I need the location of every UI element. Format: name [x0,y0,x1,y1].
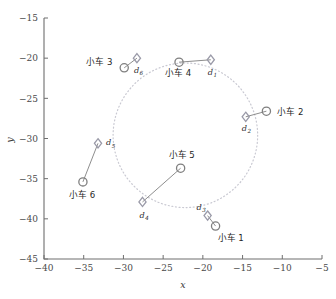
vehicle-label: 小车 2 [277,106,303,117]
target-label: d4 [139,210,149,221]
target-label: d6 [134,65,144,76]
x-tick-label: −25 [154,263,173,273]
target-label: d1 [208,67,217,78]
x-axis-title: x [180,279,186,290]
connector-line [83,143,98,182]
y-axis-title: y [4,137,15,144]
point-labels: 小车 1小车 2小车 3小车 4小车 5小车 6d1d2d3d4d5d6 [69,56,304,243]
vehicle-label: 小车 6 [69,189,95,200]
y-tick-label: −35 [19,174,38,184]
x-tick-label: −5 [315,263,329,273]
x-tick-label: −20 [193,263,212,273]
y-tick-label: −20 [19,53,38,63]
axes: −40−35−30−25−20−15−10−5−45−40−35−30−25−2… [19,13,329,273]
target-marker[interactable] [133,54,140,63]
x-tick-label: −15 [233,263,252,273]
vehicle-label: 小车 5 [169,149,195,160]
x-tick-label: −40 [35,263,54,273]
y-tick-label: −15 [19,13,38,23]
y-tick-label: −45 [19,254,38,264]
scatter-plot: −40−35−30−25−20−15−10−5−45−40−35−30−25−2… [0,0,336,299]
x-tick-label: −30 [114,263,133,273]
vehicle-label: 小车 1 [218,232,244,243]
figure-container: −40−35−30−25−20−15−10−5−45−40−35−30−25−2… [0,0,336,299]
x-tick-label: −10 [273,263,292,273]
target-label: d3 [197,202,207,213]
target-label: d5 [106,137,116,148]
vehicle-label: 小车 4 [165,67,191,78]
y-tick-label: −40 [19,214,38,224]
formation-circle [113,63,258,208]
y-tick-label: −25 [19,94,38,104]
connector-line [142,168,180,202]
target-label: d2 [242,123,252,134]
vehicle-label: 小车 3 [86,56,112,67]
formation-circle-path [113,63,258,208]
connector-line [179,60,211,62]
y-tick-label: −30 [19,134,38,144]
x-tick-label: −35 [74,263,93,273]
